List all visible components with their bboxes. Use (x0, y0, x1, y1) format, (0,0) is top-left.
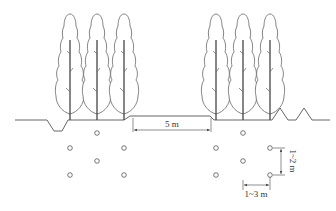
road-width-label: 5 m (165, 119, 179, 129)
pit-marker (122, 146, 127, 151)
tree-icon (55, 14, 84, 120)
pit-marker (95, 159, 100, 164)
tree-icon (228, 14, 257, 120)
pit-marker (122, 173, 127, 178)
tree-icon (201, 14, 230, 120)
pit-marker (241, 131, 246, 136)
pit-marker (214, 173, 219, 178)
pit-marker (95, 131, 100, 136)
tree-icon (82, 14, 111, 120)
pit-marker (241, 159, 246, 164)
pit-marker (268, 173, 273, 178)
row-spacing-dimension (273, 148, 285, 175)
planting-diagram: 5 m 1~2 m 1~3 m (0, 0, 336, 211)
pit-marker (68, 146, 73, 151)
pit-marker (268, 146, 273, 151)
planting-pits (68, 131, 273, 178)
left-tree-row (55, 14, 138, 120)
tree-icon (255, 14, 284, 120)
row-spacing-label: 1~2 m (288, 149, 298, 172)
pit-marker (214, 146, 219, 151)
plant-spacing-label: 1~3 m (244, 189, 267, 199)
pit-marker (68, 173, 73, 178)
tree-icon (109, 14, 138, 120)
right-tree-row (201, 14, 284, 120)
